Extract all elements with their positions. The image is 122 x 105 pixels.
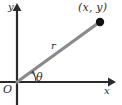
- polar-coordinate-figure: (x, y) r θ O x y: [0, 0, 122, 105]
- radius-label: r: [51, 41, 56, 51]
- radius-ray: [17, 23, 99, 83]
- point-coordinate-label: (x, y): [78, 2, 107, 13]
- x-axis-label: x: [104, 86, 110, 96]
- terminal-point-marker: [96, 18, 104, 26]
- y-axis-label: y: [8, 2, 14, 12]
- angle-theta-label: θ: [36, 72, 43, 83]
- origin-label: O: [3, 84, 12, 95]
